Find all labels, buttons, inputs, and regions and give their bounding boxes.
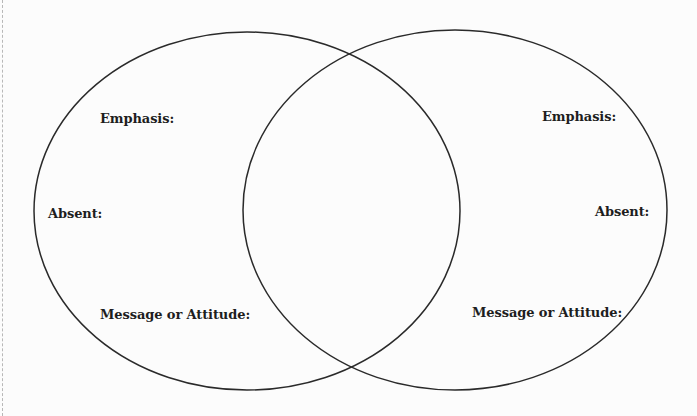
right-emphasis-label: Emphasis:: [542, 110, 616, 123]
left-emphasis-label: Emphasis:: [100, 112, 174, 125]
right-absent-label: Absent:: [595, 205, 649, 218]
right-message-attitude-label: Message or Attitude:: [472, 306, 622, 319]
venn-diagram-canvas: Emphasis: Absent: Message or Attitude: E…: [0, 0, 697, 416]
venn-diagram: [0, 0, 697, 416]
left-message-attitude-label: Message or Attitude:: [100, 308, 250, 321]
left-absent-label: Absent:: [48, 207, 102, 220]
